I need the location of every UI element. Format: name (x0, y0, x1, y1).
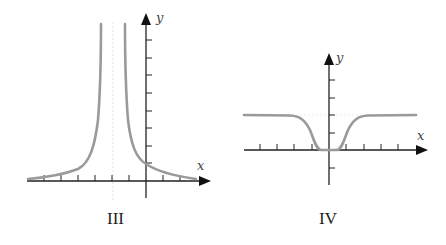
graph-iv: y x IV (244, 50, 428, 228)
graph-iii: y x III (27, 10, 211, 228)
y-axis-label: y (335, 50, 344, 65)
x-axis-label: x (417, 128, 425, 143)
y-axis-arrow-icon (324, 53, 334, 65)
graph-caption: IV (319, 209, 338, 228)
y-axis-label: y (155, 10, 164, 25)
curve-left-branch (28, 24, 101, 179)
curve-right-branch (125, 24, 196, 179)
x-axis-arrow-icon (416, 145, 428, 155)
graph-caption: III (107, 209, 124, 228)
y-axis-arrow-icon (141, 13, 151, 25)
y-ticks (146, 40, 152, 163)
x-ticks (44, 175, 180, 181)
x-axis-label: x (197, 158, 205, 173)
figure: y x III y (0, 0, 446, 245)
x-axis-arrow-icon (199, 176, 211, 186)
y-ticks (329, 80, 335, 168)
